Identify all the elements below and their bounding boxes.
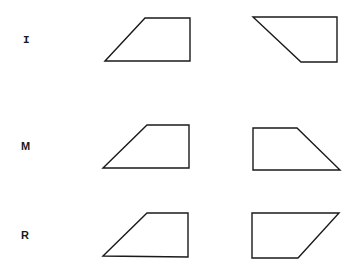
shapes-canvas xyxy=(0,0,358,272)
row-m-left-trapezoid xyxy=(103,125,189,168)
row-i-right-trapezoid xyxy=(253,17,337,62)
row-m-right-trapezoid xyxy=(253,128,340,170)
row-i-left-trapezoid xyxy=(105,18,190,61)
row-r-left-trapezoid xyxy=(103,213,188,257)
row-r-right-trapezoid xyxy=(252,213,339,258)
